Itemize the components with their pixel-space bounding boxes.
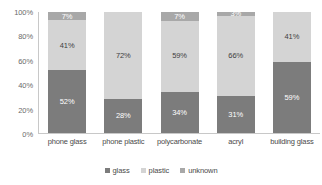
y-axis-tick-label: 0%	[22, 130, 33, 139]
bar-segment-value-label: 59%	[172, 52, 187, 60]
bar-segment-unknown[interactable]: 7%	[48, 12, 86, 20]
legend-item-plastic[interactable]: plastic	[141, 166, 170, 175]
bar-segment-glass[interactable]: 31%	[217, 96, 255, 134]
bar-group: 7%59%34%	[151, 12, 207, 133]
stacked-bar-chart: 100%80%60%40%20%0% 7%41%52%72%28%7%59%34…	[0, 0, 322, 185]
legend-item-glass[interactable]: glass	[105, 166, 130, 175]
y-axis: 100%80%60%40%20%0%	[0, 12, 36, 134]
bar-segment-value-label: 41%	[285, 33, 300, 41]
bar-segment-value-label: 7%	[174, 13, 185, 21]
chart-legend: glassplasticunknown	[0, 166, 322, 175]
y-axis-tick-label: 20%	[18, 105, 33, 114]
bar-segment-plastic[interactable]: 59%	[161, 21, 199, 92]
bars-area: 7%41%52%72%28%7%59%34%3%66%31%41%59%	[39, 12, 320, 133]
bar-group: 3%66%31%	[208, 12, 264, 133]
x-axis-category-labels: phone glassphone plasticpolycarbonateacr…	[39, 137, 320, 151]
bar-group: 41%59%	[264, 12, 320, 133]
bar-segment-plastic[interactable]: 41%	[273, 12, 311, 62]
bar-segment-value-label: 34%	[172, 109, 187, 117]
bar-segment-value-label: 66%	[228, 52, 243, 60]
y-axis-tick-label: 60%	[18, 56, 33, 65]
legend-label: unknown	[188, 166, 217, 175]
x-axis-tick-label: phone glass	[39, 137, 95, 151]
bar-segment-value-label: 52%	[60, 98, 75, 106]
x-axis-line	[38, 133, 320, 134]
bar-segment-value-label: 72%	[116, 52, 131, 60]
y-axis-tick-label: 100%	[14, 8, 33, 17]
bar-segment-glass[interactable]: 34%	[161, 92, 199, 133]
bar-segment-glass[interactable]: 59%	[273, 62, 311, 133]
bar-segment-value-label: 31%	[228, 111, 243, 119]
legend-swatch-icon	[105, 168, 110, 173]
bar-stack[interactable]: 7%59%34%	[161, 12, 199, 133]
legend-swatch-icon	[141, 168, 146, 173]
legend-label: plastic	[149, 166, 170, 175]
legend-label: glass	[113, 166, 130, 175]
bar-segment-plastic[interactable]: 41%	[48, 20, 86, 70]
legend-swatch-icon	[180, 168, 185, 173]
x-axis-tick-label: acryl	[208, 137, 264, 151]
bar-stack[interactable]: 3%66%31%	[217, 12, 255, 133]
x-axis-tick-label: building glass	[264, 137, 320, 151]
bar-stack[interactable]: 72%28%	[104, 12, 142, 133]
bar-stack[interactable]: 41%59%	[273, 12, 311, 133]
bar-stack[interactable]: 7%41%52%	[48, 12, 86, 133]
x-axis-tick-label: phone plastic	[95, 137, 151, 151]
bar-segment-unknown[interactable]: 7%	[161, 12, 199, 20]
bar-segment-value-label: 41%	[60, 42, 75, 50]
bar-segment-value-label: 7%	[62, 13, 73, 21]
bar-segment-plastic[interactable]: 66%	[217, 16, 255, 96]
x-axis-tick-label: polycarbonate	[151, 137, 207, 151]
y-axis-tick-label: 40%	[18, 81, 33, 90]
bar-segment-glass[interactable]: 28%	[104, 99, 142, 133]
bar-segment-value-label: 28%	[116, 112, 131, 120]
y-axis-tick-label: 80%	[18, 32, 33, 41]
bar-segment-value-label: 59%	[285, 94, 300, 102]
plot-area: 100%80%60%40%20%0% 7%41%52%72%28%7%59%34…	[0, 12, 322, 134]
bar-group: 7%41%52%	[39, 12, 95, 133]
bar-segment-plastic[interactable]: 72%	[104, 12, 142, 99]
bar-group: 72%28%	[95, 12, 151, 133]
legend-item-unknown[interactable]: unknown	[180, 166, 217, 175]
bar-segment-glass[interactable]: 52%	[48, 70, 86, 133]
